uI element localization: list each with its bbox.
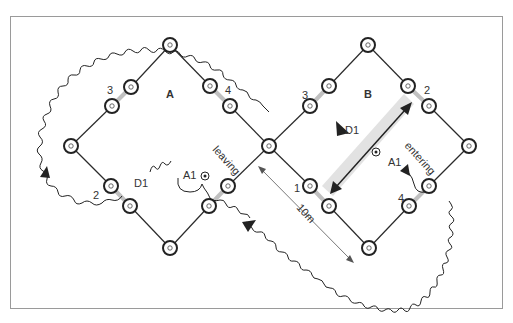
a-node-label-2: 2 [93, 189, 99, 201]
distance-label: 10m [295, 201, 318, 225]
field-b-label: B [364, 88, 372, 100]
diagram-canvas: A B 3 4 2 3 2 1 4 D1 D1 A1 A1 leaving en… [0, 0, 513, 323]
ball-icon-left [201, 172, 209, 180]
a-node-label-3: 3 [107, 84, 113, 96]
ball-icon-center [372, 148, 380, 156]
b-node-label-4: 4 [398, 192, 404, 204]
d1-label-left: D1 [134, 177, 148, 189]
entering-band [322, 94, 414, 196]
entering-arrow-line [336, 110, 405, 187]
d1-label-right: D1 [345, 124, 359, 136]
field-a-label: A [166, 88, 174, 100]
arrowhead-left [40, 166, 50, 178]
b-node-label-3: 3 [302, 89, 308, 101]
field-a-edges [71, 45, 269, 248]
arrowhead-a1-right [400, 164, 410, 176]
a-node-label-4: 4 [225, 84, 231, 96]
leaving-label: leaving [211, 143, 243, 177]
b-node-label-1: 1 [294, 182, 300, 194]
squiggle-d1-left [150, 161, 171, 172]
b-node-label-2: 2 [424, 84, 430, 96]
a1-label-right: A1 [388, 156, 401, 168]
a1-label-left: A1 [183, 169, 196, 181]
